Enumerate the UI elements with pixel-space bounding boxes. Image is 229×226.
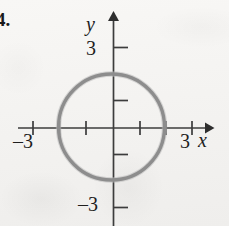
coordinate-plane [0,0,229,226]
circle-curve [59,74,165,180]
problem-number: 4. [0,10,10,29]
y-tick-label-neg3: –3 [78,194,98,214]
y-axis-arrow-icon [108,11,119,21]
x-tick-label-3: 3 [180,131,190,151]
y-axis-group [108,11,119,226]
y-tick-label-3: 3 [86,38,96,58]
y-axis-label: y [86,14,95,34]
circle-curve-group [59,74,165,180]
x-tick-label-neg3: –3 [13,131,33,151]
graph-figure: 4. y 3 –3 3 x –3 [0,0,229,226]
x-axis-label: x [198,130,207,150]
